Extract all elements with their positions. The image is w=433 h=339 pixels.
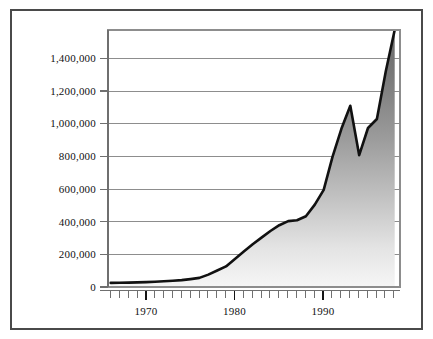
plot-area [108, 30, 400, 287]
y-tick-label-800000: 800,000 [59, 150, 96, 162]
area-chart: 1,400,000 1,200,000 1,000,000 800,000 60… [0, 0, 433, 339]
figure-root: 1,400,000 1,200,000 1,000,000 800,000 60… [0, 0, 433, 339]
x-tick-label-1990: 1990 [312, 305, 335, 317]
y-tick-label-600000: 600,000 [59, 183, 96, 195]
y-axis: 1,400,000 1,200,000 1,000,000 800,000 60… [50, 30, 108, 293]
y-tick-label-1400000: 1,400,000 [50, 52, 96, 64]
y-tick-label-0: 0 [90, 281, 96, 293]
x-axis: 1970 1980 1990 [100, 291, 400, 318]
y-tick-label-1000000: 1,000,000 [50, 117, 96, 129]
y-tick-label-400000: 400,000 [59, 216, 96, 228]
x-minor-ticks [111, 291, 394, 300]
x-tick-label-1980: 1980 [223, 305, 246, 317]
y-tick-label-200000: 200,000 [59, 248, 96, 260]
y-tick-label-1200000: 1,200,000 [50, 85, 96, 97]
x-tick-label-1970: 1970 [135, 305, 158, 317]
